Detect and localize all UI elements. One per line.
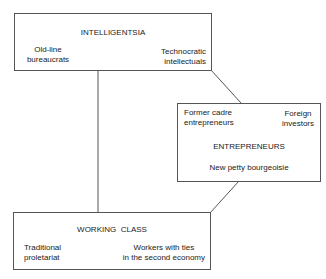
working-class-box: WORKING CLASS Traditional proletariat Wo… bbox=[13, 212, 211, 270]
second-economy-workers-label: Workers with ties in the second economy bbox=[123, 243, 205, 263]
technocratic-intellectuals-label: Technocratic intellectuals bbox=[161, 47, 206, 67]
intelligentsia-title: INTELLIGENTSIA bbox=[15, 28, 211, 38]
former-cadre-entrepreneurs-label: Former cadre entrepreneurs bbox=[184, 108, 234, 128]
connector-intelligentsia-entrepreneurs bbox=[211, 70, 241, 103]
intelligentsia-box: INTELLIGENTSIA Old-line bureaucrats Tech… bbox=[14, 13, 212, 71]
new-petty-bourgeoisie-label: New petty bourgeoisie bbox=[178, 163, 320, 173]
traditional-proletariat-label: Traditional proletariat bbox=[24, 243, 61, 263]
old-line-bureaucrats-label: Old-line bureaucrats bbox=[23, 45, 73, 65]
connector-entrepreneurs-working-class bbox=[210, 181, 239, 213]
working-class-title: WORKING CLASS bbox=[14, 225, 210, 235]
entrepreneurs-title: ENTREPRENEURS bbox=[178, 142, 320, 152]
entrepreneurs-box: Former cadre entrepreneurs Foreign inves… bbox=[177, 103, 321, 182]
foreign-investors-label: Foreign investors bbox=[282, 109, 314, 129]
